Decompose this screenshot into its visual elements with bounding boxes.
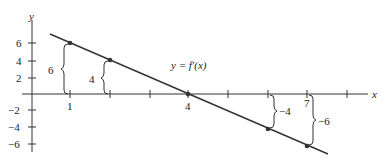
curve-label: y = f′(x) <box>170 59 207 72</box>
svg-text:−4: −4 <box>279 105 291 117</box>
x-axis-label: x <box>371 88 377 100</box>
derivative-chart: y x 6 4 2 −2 −4 −6 1 4 7 y = f′(x) <box>0 0 383 164</box>
svg-text:2: 2 <box>16 72 22 84</box>
y-tick-labels: 6 4 2 −2 −4 −6 <box>8 37 22 150</box>
svg-text:−2: −2 <box>8 104 20 116</box>
svg-text:−4: −4 <box>8 121 20 133</box>
svg-text:4: 4 <box>16 55 22 67</box>
svg-text:−6: −6 <box>318 115 330 127</box>
svg-text:4: 4 <box>89 73 95 85</box>
svg-text:7: 7 <box>304 97 310 109</box>
svg-text:−6: −6 <box>8 138 20 150</box>
svg-text:1: 1 <box>67 100 73 112</box>
svg-text:6: 6 <box>16 37 22 49</box>
svg-text:4: 4 <box>185 100 191 112</box>
y-axis-label: y <box>28 10 34 22</box>
svg-text:6: 6 <box>48 64 54 76</box>
